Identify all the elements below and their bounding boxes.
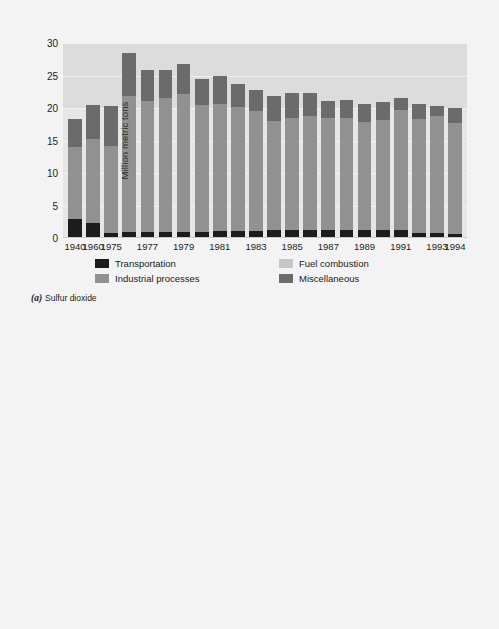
bar-segment-industrial-processes [412, 119, 426, 233]
bar-segment-miscellaneous [376, 102, 390, 121]
plot-area-sulfur-dioxide: 051015202530 Million metric tons [63, 43, 467, 238]
stacked-bar [195, 79, 209, 238]
x-tick-label: 1987 [318, 241, 339, 252]
bar-column [229, 43, 247, 238]
bar-segment-miscellaneous [231, 84, 245, 107]
bar-column [374, 43, 392, 238]
bar-segment-industrial-processes [376, 120, 390, 230]
bar-column [247, 43, 265, 238]
bar-column [193, 43, 211, 238]
bar-column [356, 43, 374, 238]
y-tick-label: 5 [32, 200, 58, 211]
legend-swatch-icon [279, 259, 293, 268]
bar-column [410, 43, 428, 238]
stacked-bar [358, 104, 372, 238]
x-tick-label: 1994 [444, 241, 465, 252]
x-tick-cell [301, 241, 319, 255]
bar-column [337, 43, 355, 238]
y-tick-label: 25 [32, 70, 58, 81]
x-axis-ticks-sulfur-dioxide: 1940196019751977197919811983198519871989… [63, 241, 467, 255]
stacked-bar [249, 90, 263, 238]
legend-label: Fuel combustion [299, 258, 369, 269]
y-tick-label: 0 [32, 233, 58, 244]
bar-segment-industrial-processes [303, 116, 317, 230]
stacked-bar [285, 93, 299, 238]
stacked-bar [267, 96, 281, 238]
x-tick-cell: 1977 [138, 241, 156, 255]
legend-swatch-icon [279, 274, 293, 283]
bar-column [66, 43, 84, 238]
bar-segment-industrial-processes [177, 94, 191, 231]
bar-segment-miscellaneous [86, 105, 100, 138]
bar-segment-miscellaneous [412, 104, 426, 119]
stacked-bar [86, 105, 100, 238]
bar-segment-miscellaneous [141, 70, 155, 101]
bar-segment-industrial-processes [340, 118, 354, 230]
bar-segment-miscellaneous [195, 79, 209, 105]
bar-segment-miscellaneous [448, 108, 462, 123]
legend-swatch-icon [95, 259, 109, 268]
stacked-bar [68, 119, 82, 238]
bar-segment-transportation [68, 219, 82, 239]
x-tick-cell [410, 241, 428, 255]
y-tick-label: 10 [32, 168, 58, 179]
x-tick-label: 1979 [173, 241, 194, 252]
bar-segment-transportation [86, 223, 100, 238]
bar-segment-industrial-processes [448, 123, 462, 234]
x-tick-label: 1975 [101, 241, 122, 252]
bar-column [283, 43, 301, 238]
bar-column [446, 43, 464, 238]
bar-segment-industrial-processes [231, 107, 245, 231]
bar-column [301, 43, 319, 238]
legend-item-miscellaneous: Miscellaneous [279, 273, 463, 284]
stacked-bar [159, 70, 173, 238]
axis-baseline [63, 237, 467, 238]
stacked-bar [340, 100, 354, 238]
legend-item-transportation: Transportation [95, 258, 279, 269]
x-tick-cell: 1985 [283, 241, 301, 255]
bar-segment-industrial-processes [267, 121, 281, 230]
x-tick-label: 1991 [390, 241, 411, 252]
x-tick-label: 1977 [137, 241, 158, 252]
bar-segment-industrial-processes [321, 118, 335, 230]
bar-column [428, 43, 446, 238]
x-tick-cell: 1940 [66, 241, 84, 255]
caption-sulfur-dioxide: (a)Sulfur dioxide [31, 293, 97, 303]
y-axis-label-sulfur-dioxide: Million metric tons [119, 45, 130, 235]
panel-nitrogen-oxides: 051015202530 Million metric tons 1940196… [0, 312, 499, 629]
bar-segment-industrial-processes [68, 147, 82, 219]
stacked-bar [394, 98, 408, 238]
bar-segment-miscellaneous [213, 76, 227, 104]
x-tick-cell: 1979 [175, 241, 193, 255]
bar-segment-miscellaneous [267, 96, 281, 121]
bar-column [265, 43, 283, 238]
x-tick-cell [229, 241, 247, 255]
bar-segment-industrial-processes [394, 110, 408, 230]
x-tick-cell: 1991 [392, 241, 410, 255]
legend-sulfur-dioxide: TransportationFuel combustionIndustrial … [95, 258, 463, 288]
legend-label: Miscellaneous [299, 273, 359, 284]
x-tick-cell [374, 241, 392, 255]
bar-segment-industrial-processes [358, 122, 372, 230]
x-tick-cell [120, 241, 138, 255]
y-tick-label: 20 [32, 103, 58, 114]
stacked-bar [303, 93, 317, 238]
bar-column [175, 43, 193, 238]
legend-label: Transportation [115, 258, 176, 269]
x-tick-cell: 1975 [102, 241, 120, 255]
bar-segment-miscellaneous [159, 70, 173, 99]
bar-column [84, 43, 102, 238]
bar-segment-miscellaneous [358, 104, 372, 122]
bar-segment-miscellaneous [394, 98, 408, 110]
caption-text-a: Sulfur dioxide [45, 293, 97, 303]
x-tick-cell [156, 241, 174, 255]
stacked-bar [141, 70, 155, 238]
stacked-bar [213, 76, 227, 238]
bar-column [156, 43, 174, 238]
stacked-bar [430, 106, 444, 238]
x-tick-cell [193, 241, 211, 255]
y-tick-label: 30 [32, 38, 58, 49]
bar-segment-industrial-processes [104, 146, 118, 234]
x-tick-label: 1989 [354, 241, 375, 252]
bar-column [319, 43, 337, 238]
